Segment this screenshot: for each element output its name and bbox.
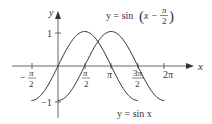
y-axis-arrow-icon: [55, 11, 61, 19]
x-axis-arrow-icon: [186, 63, 194, 69]
ticks: [32, 33, 164, 102]
svg-text:y = sin: y = sin: [106, 10, 133, 21]
axes: [12, 16, 190, 118]
y-tick-label-1: 1: [47, 28, 52, 39]
svg-text:π: π: [83, 68, 88, 78]
svg-text:π: π: [29, 68, 34, 78]
svg-text:−: −: [20, 72, 26, 83]
x-tick-label-half-pi: π 2: [82, 68, 90, 89]
svg-text:π: π: [162, 5, 167, 15]
svg-text:): ): [169, 8, 174, 25]
y-tick-label-neg1: −1: [41, 97, 52, 108]
x-axis-label: x: [197, 60, 203, 72]
svg-text:2: 2: [84, 79, 89, 89]
annotation-sin: y = sin x: [117, 108, 152, 119]
x-tick-label-two-pi: 2π: [163, 69, 173, 80]
annotation-shifted: y = sin ( x − π 2 ): [106, 5, 174, 26]
svg-text:2: 2: [135, 79, 140, 89]
svg-text:2: 2: [29, 79, 34, 89]
sine-graph: y x 1 −1 − π 2 π 2 π 3π 2 2π y = sin ( x…: [0, 0, 212, 124]
x-tick-label-three-half-pi: 3π 2: [132, 68, 144, 89]
svg-text:x −: x −: [143, 10, 158, 21]
x-tick-label-pi: π: [107, 69, 113, 80]
x-tick-label-neg-half-pi: − π 2: [20, 68, 36, 89]
svg-text:3π: 3π: [133, 68, 143, 78]
y-axis-label: y: [48, 7, 54, 18]
svg-text:2: 2: [162, 16, 167, 26]
